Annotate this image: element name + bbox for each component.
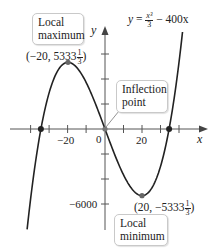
local-min-callout: Local minimum [114,214,168,246]
x-intercept-right-point [166,126,172,132]
local-max-callout-line2: maximum [38,29,78,42]
local-max-coord-text: (−20, 5333 [26,50,77,62]
equation-denominator: 3 [145,21,153,29]
x-tick-label-neg20: −20 [57,134,74,146]
inflection-callout-line2: point [122,96,162,109]
local-min-coordinates: (20, −533313) [134,200,194,217]
equation-rest: − 400x [156,13,188,25]
x-axis-label: x [197,133,202,145]
x-intercept-left-point [38,126,44,132]
inflection-point [102,126,107,131]
origin-label: 0 [96,133,102,145]
local-min-point [139,193,144,198]
local-min-callout-line2: minimum [120,230,162,243]
inflection-callout-line1: Inflection [122,83,162,96]
equation-lhs: y [128,13,133,25]
y-axis-label: y [91,24,96,36]
local-max-coordinates: (−20, 533313) [26,49,86,66]
local-max-coord-close: ) [83,50,87,62]
equation-equals: = [136,13,143,25]
local-min-coord-close: ) [191,201,195,213]
x-tick-label-20: 20 [136,134,147,146]
equation-fraction: x³3 [145,12,153,29]
inflection-callout: Inflection point [116,80,168,113]
y-tick-label-neg6000: −6000 [69,198,97,210]
inflection-leader-line [106,111,119,127]
local-min-coord-text: (20, −5333 [134,201,185,213]
local-min-callout-line1: Local [120,217,162,230]
equation-label: y = x³3 − 400x [128,12,189,29]
local-max-callout-line1: Local [38,16,78,29]
local-max-callout: Local maximum [32,13,84,45]
